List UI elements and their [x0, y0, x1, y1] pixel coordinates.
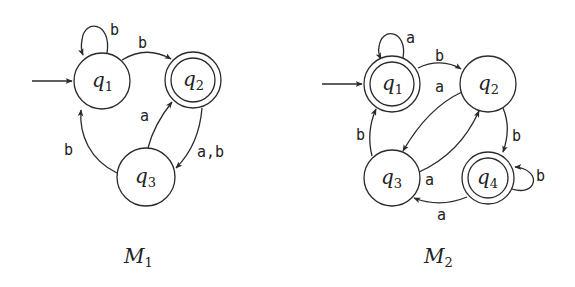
machine-label-m1: M1: [123, 244, 153, 270]
m1-edge-q1-q1: [81, 26, 107, 55]
m2-state-q1-sub: 1: [395, 82, 403, 97]
m2-edge-label-q2-q4: b: [512, 127, 521, 145]
m2-state-q4-sub: 4: [490, 176, 498, 191]
m2-edge-q4-q3: [414, 197, 467, 203]
m1-state-q3: q3: [117, 148, 175, 206]
m2-edge-label-q2-q3: a: [435, 78, 444, 96]
m2-state-q1-base: q: [382, 71, 395, 95]
m1-edge-label-q3-q2: a: [140, 107, 149, 125]
m2-edge-q3-q1: [370, 109, 376, 156]
m2-state-q3-sub: 3: [394, 176, 402, 191]
m2-state-q3-base: q: [381, 165, 394, 189]
automata-figure: b b a,b a b q1 q2: [0, 0, 575, 287]
m2-edge-q4-q4: [512, 167, 533, 190]
m2-state-q1: q1: [364, 56, 420, 112]
m1-state-q1-base: q: [92, 68, 105, 92]
m2-edge-label-q4-q4: b: [536, 167, 545, 185]
m2-edge-label-q1-q2: b: [435, 47, 444, 65]
m1-state-q2-base: q: [183, 67, 196, 91]
m1-edge-label-q2-q3: a,b: [197, 143, 224, 161]
machine-m2: a b a a b b b a q1: [322, 29, 545, 270]
m2-edge-label-q1-q1: a: [406, 29, 415, 47]
m1-state-q2-sub: 2: [196, 78, 204, 93]
m1-state-q2: q2: [165, 52, 221, 108]
machine-m1: b b a,b a b q1 q2: [32, 21, 224, 270]
m2-edge-q2-q4: [503, 108, 507, 152]
m1-edge-q3-q2: [148, 102, 172, 148]
m1-edge-q3-q1: [81, 110, 117, 173]
m2-state-q2: q2: [460, 56, 516, 112]
m2-edge-label-q3-q2: a: [425, 171, 434, 189]
m2-edge-label-q3-q1: b: [356, 126, 365, 144]
machine-label-m2: M2: [423, 244, 453, 270]
m2-edge-label-q4-q3: a: [437, 206, 446, 224]
m1-edge-label-q1-q1: b: [110, 21, 119, 39]
m2-state-q4-base: q: [477, 165, 490, 189]
m1-state-q1: q1: [74, 53, 130, 109]
m1-edge-label-q1-q2: b: [138, 34, 147, 52]
m1-edge-q1-q2: [122, 52, 171, 60]
m1-edge-label-q3-q1: b: [64, 141, 73, 159]
m2-state-q2-base: q: [478, 71, 491, 95]
m1-state-q1-sub: 1: [105, 79, 113, 94]
m1-state-q3-base: q: [135, 164, 148, 188]
m2-edge-q1-q1: [379, 34, 404, 59]
m2-state-q4: q4: [462, 152, 514, 204]
m1-state-q3-sub: 3: [148, 175, 156, 190]
m2-state-q2-sub: 2: [491, 82, 499, 97]
m2-state-q3: q3: [364, 150, 420, 206]
